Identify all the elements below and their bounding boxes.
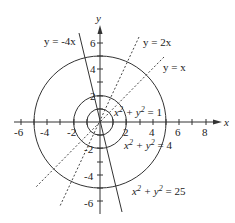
label-y-equals-neg-4x: y = -4x bbox=[44, 35, 76, 47]
coordinate-plane-diagram: -6 -4 -2 2 4 6 8 6 4 2 -2 -4 -6 y x y = … bbox=[0, 0, 235, 223]
x-tick-label: -6 bbox=[14, 126, 24, 138]
label-circle-4: x2 + y2 = 4 bbox=[123, 138, 172, 151]
x-tick-label: -2 bbox=[67, 126, 76, 138]
y-tick-label: -2 bbox=[84, 143, 93, 155]
x-tick-label: -4 bbox=[40, 126, 50, 138]
y-tick-label: 2 bbox=[90, 90, 96, 102]
y-tick-label: -4 bbox=[84, 170, 94, 182]
x-tick-label: 8 bbox=[202, 126, 208, 138]
y-tick-label: -6 bbox=[84, 197, 94, 209]
y-tick-label: 6 bbox=[90, 37, 96, 49]
y-tick-label: 4 bbox=[90, 63, 96, 75]
label-y-equals-x: y = x bbox=[163, 61, 186, 73]
x-tick-label: 2 bbox=[123, 126, 129, 138]
x-tick-label: 4 bbox=[149, 126, 155, 138]
x-tick-label: 6 bbox=[175, 126, 181, 138]
label-circle-25: x2 + y2 = 25 bbox=[131, 184, 186, 197]
label-y-equals-2x: y = 2x bbox=[143, 36, 172, 48]
x-axis-arrow-icon bbox=[213, 120, 222, 125]
x-axis-label: x bbox=[223, 116, 229, 128]
y-axis-label: y bbox=[95, 12, 101, 24]
y-axis-arrow-icon bbox=[98, 25, 103, 34]
label-circle-1: x2 + y2 = 1 bbox=[113, 105, 162, 118]
